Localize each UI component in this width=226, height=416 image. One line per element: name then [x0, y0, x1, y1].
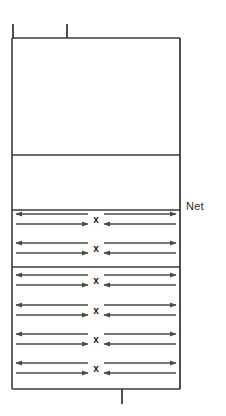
center-marker-row-5: x: [93, 334, 99, 345]
center-marker-row-4: x: [93, 305, 99, 316]
court-diagram: xxxxxx Net: [0, 0, 226, 416]
net-label: Net: [186, 200, 204, 212]
center-marker-row-6: x: [93, 363, 99, 374]
drill-arrows: [16, 214, 176, 373]
center-marker-row-3: x: [93, 275, 99, 286]
center-marker-row-1: x: [93, 214, 99, 225]
center-marker-row-2: x: [93, 243, 99, 254]
